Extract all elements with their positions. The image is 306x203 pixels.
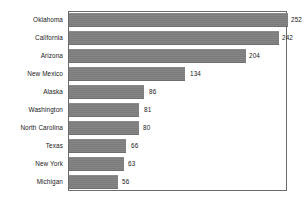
value-label: 86	[149, 83, 156, 101]
bar	[69, 157, 124, 171]
bar	[69, 67, 185, 81]
category-label: North Carolina	[0, 119, 63, 137]
bar	[69, 121, 139, 135]
value-label: 252	[291, 11, 302, 29]
table-row: New York 63	[0, 155, 306, 173]
bar	[69, 175, 118, 189]
category-label: California	[0, 29, 63, 47]
table-row: North Carolina 80	[0, 119, 306, 137]
table-row: Arizona 204	[0, 47, 306, 65]
bar	[69, 49, 246, 63]
category-label: Washington	[0, 101, 63, 119]
bar	[69, 31, 279, 45]
bar	[69, 103, 139, 117]
category-label: Oklahoma	[0, 11, 63, 29]
category-label: Alaska	[0, 83, 63, 101]
value-label: 80	[143, 119, 150, 137]
category-label: Michigan	[0, 173, 63, 191]
table-row: Texas 66	[0, 137, 306, 155]
table-row: Michigan 56	[0, 173, 306, 191]
value-label: 242	[282, 29, 293, 47]
bar	[69, 139, 126, 153]
value-label: 134	[190, 65, 201, 83]
value-label: 63	[128, 155, 135, 173]
value-label: 81	[144, 101, 151, 119]
value-label: 66	[131, 137, 138, 155]
category-label: New York	[0, 155, 63, 173]
table-row: Oklahoma 252	[0, 11, 306, 29]
category-label: Arizona	[0, 47, 63, 65]
table-row: New Mexico 134	[0, 65, 306, 83]
table-row: Alaska 86	[0, 83, 306, 101]
value-label: 56	[122, 173, 129, 191]
bar-rows-container: Oklahoma 252 California 242 Arizona 204 …	[0, 11, 306, 191]
category-label: New Mexico	[0, 65, 63, 83]
table-row: Washington 81	[0, 101, 306, 119]
bar	[69, 85, 144, 99]
value-label: 204	[249, 47, 260, 65]
category-label: Texas	[0, 137, 63, 155]
table-row: California 242	[0, 29, 306, 47]
bar-chart: Oklahoma 252 California 242 Arizona 204 …	[0, 0, 306, 203]
bar	[69, 13, 288, 27]
